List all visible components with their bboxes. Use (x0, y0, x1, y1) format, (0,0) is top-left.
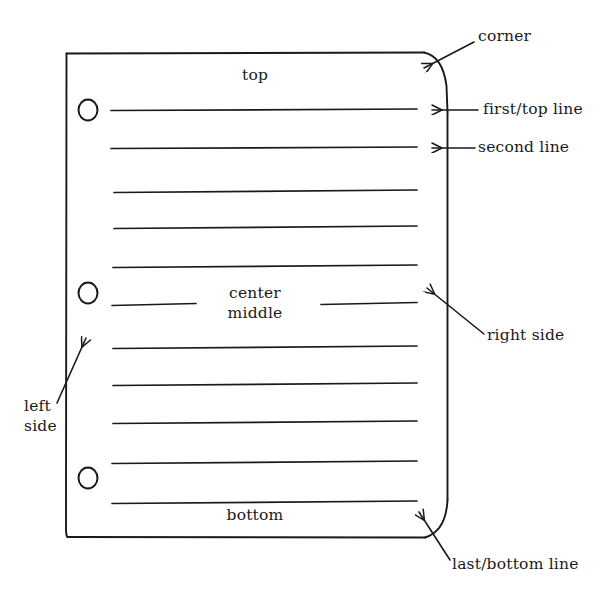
caption-bottom: bottom (203, 506, 307, 524)
ruled-line-8 (113, 383, 417, 386)
callout-label-corner: corner (478, 27, 531, 45)
punch-holes (79, 100, 98, 489)
ruled-line-6-left (112, 304, 196, 306)
ruled-line-6-right (321, 303, 417, 305)
callout-label-left-side-line1: left (24, 397, 51, 415)
callout-label-left-side-line2: side (24, 417, 57, 435)
ruled-line-3 (114, 190, 417, 193)
punch-hole-bottom (79, 468, 98, 489)
left-side-leader (57, 338, 86, 403)
ruled-line-5 (113, 265, 417, 268)
punch-hole-top (79, 100, 98, 121)
ruled-line-9 (113, 421, 417, 424)
right-side-leader (427, 288, 484, 334)
ruled-line-11 (112, 501, 417, 504)
callout-label-right-side: right side (487, 326, 564, 344)
callout-label-first-top-line: first/top line (483, 100, 583, 118)
ruled-line-2 (111, 147, 417, 149)
figure-canvas: top center middle bottom corner first/to… (0, 0, 598, 597)
callout-label-second-line: second line (478, 138, 569, 156)
ruled-line-7 (113, 346, 417, 349)
ruled-line-1 (111, 109, 417, 111)
ruled-line-10 (112, 461, 417, 464)
punch-hole-middle (79, 283, 98, 304)
last-bottom-line-leader (419, 512, 450, 560)
caption-top: top (213, 66, 297, 84)
ruled-line-4 (114, 226, 417, 229)
caption-middle: middle (213, 304, 297, 322)
caption-center: center (213, 284, 297, 302)
callout-label-last-bottom-line: last/bottom line (452, 555, 579, 573)
